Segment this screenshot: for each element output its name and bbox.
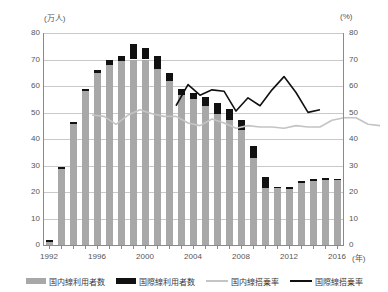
- left-axis-tick-label: 80: [18, 28, 40, 37]
- right-axis-tick-label: 0: [349, 240, 371, 249]
- x-axis-tickmark: [49, 246, 50, 249]
- x-axis-unit-label: (年): [352, 252, 365, 263]
- right-axis-tick-label: 80: [349, 28, 371, 37]
- legend-swatch-bar: [26, 278, 46, 284]
- right-axis-tick-label: 50: [349, 108, 371, 117]
- bar-1992: [46, 33, 53, 245]
- left-axis-tick-label: 30: [18, 161, 40, 170]
- chart-container: (万人) (%) 80706050403020100 8070605040302…: [0, 0, 388, 292]
- domestic-load-factor-line: [92, 110, 380, 129]
- x-axis-tickmark: [277, 246, 278, 249]
- legend-label: 国際線搭乗率: [315, 276, 363, 287]
- x-axis-tickmark: [301, 246, 302, 249]
- left-axis-tick-label: 20: [18, 187, 40, 196]
- x-axis-label-2012: 2012: [280, 252, 298, 261]
- legend-item-1[interactable]: 国際線利用者数: [116, 276, 195, 287]
- x-axis-tickmark: [133, 246, 134, 249]
- x-axis-tickmark: [97, 246, 98, 249]
- x-axis-label-2016: 2016: [328, 252, 346, 261]
- x-axis-tickmark: [241, 246, 242, 249]
- bar-segment-international: [106, 60, 113, 65]
- plot-area: [43, 33, 343, 245]
- bar-segment-domestic: [70, 124, 77, 245]
- x-axis-label-2000: 2000: [136, 252, 154, 261]
- x-axis-label-2004: 2004: [184, 252, 202, 261]
- chart-legend: 国内線利用者数国際線利用者数国内線搭乗率国際線搭乗率: [0, 272, 388, 290]
- x-axis-tickmark: [337, 246, 338, 249]
- x-axis-tickmark: [265, 246, 266, 249]
- left-axis-unit-label: (万人): [44, 12, 65, 23]
- bar-segment-international: [130, 44, 137, 60]
- line-series-group: [86, 66, 386, 278]
- right-axis-tick-label: 30: [349, 161, 371, 170]
- bar-segment-international: [58, 167, 65, 170]
- right-axis-tick-label: 60: [349, 81, 371, 90]
- bar-segment-international: [142, 48, 149, 60]
- right-axis-unit-label: (%): [340, 12, 352, 21]
- legend-item-3[interactable]: 国際線搭乗率: [290, 276, 363, 287]
- bar-segment-international: [46, 240, 53, 243]
- x-axis-tickmark: [61, 246, 62, 249]
- x-axis-tickmark: [181, 246, 182, 249]
- x-axis-tickmark: [217, 246, 218, 249]
- bar-segment-international: [70, 122, 77, 125]
- x-axis-tickmark: [121, 246, 122, 249]
- x-axis-tickmark: [289, 246, 290, 249]
- bar-segment-domestic: [58, 169, 65, 245]
- legend-label: 国内線利用者数: [49, 276, 105, 287]
- x-axis-tickmark: [253, 246, 254, 249]
- left-axis-tick-label: 50: [18, 108, 40, 117]
- x-axis-tickmark: [157, 246, 158, 249]
- left-axis: [43, 33, 44, 246]
- x-axis-tickmark: [205, 246, 206, 249]
- bar-1994: [70, 33, 77, 245]
- legend-label: 国内線搭乗率: [231, 276, 279, 287]
- left-axis-tick-label: 10: [18, 214, 40, 223]
- x-axis-label-1992: 1992: [40, 252, 58, 261]
- right-axis-tick-label: 40: [349, 134, 371, 143]
- bar-1993: [58, 33, 65, 245]
- x-axis-tickmark: [229, 246, 230, 249]
- legend-label: 国際線利用者数: [139, 276, 195, 287]
- left-axis-tick-label: 0: [18, 240, 40, 249]
- x-axis-tickmark: [325, 246, 326, 249]
- x-axis-label-2008: 2008: [232, 252, 250, 261]
- left-axis-tick-label: 70: [18, 55, 40, 64]
- x-axis-tickmark: [85, 246, 86, 249]
- right-axis: [343, 33, 344, 246]
- legend-item-0[interactable]: 国内線利用者数: [26, 276, 105, 287]
- x-axis-tickmark: [313, 246, 314, 249]
- left-axis-tick-label: 40: [18, 134, 40, 143]
- x-axis-label-1996: 1996: [88, 252, 106, 261]
- right-axis-tick-label: 70: [349, 55, 371, 64]
- x-axis-tickmark: [109, 246, 110, 249]
- x-axis-tickmark: [145, 246, 146, 249]
- x-axis-tickmark: [169, 246, 170, 249]
- left-axis-tick-label: 60: [18, 81, 40, 90]
- legend-swatch-line: [290, 280, 312, 282]
- x-axis-tickmark: [73, 246, 74, 249]
- legend-swatch-line: [206, 280, 228, 282]
- legend-item-2[interactable]: 国内線搭乗率: [206, 276, 279, 287]
- international-load-factor-line: [176, 77, 320, 113]
- x-axis-tickmark: [193, 246, 194, 249]
- legend-swatch-bar: [116, 278, 136, 284]
- right-axis-tick-label: 10: [349, 214, 371, 223]
- right-axis-tick-label: 20: [349, 187, 371, 196]
- bar-segment-international: [118, 56, 125, 61]
